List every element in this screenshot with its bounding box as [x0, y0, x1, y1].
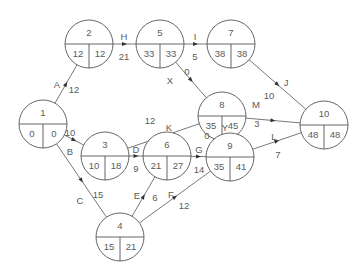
activity-label: E	[134, 190, 140, 201]
network-svg: 1002121231018415215333362127738388354593…	[0, 0, 363, 276]
activity-label: Y	[222, 122, 229, 133]
duration-label: 0	[184, 66, 189, 77]
duration-label: 15	[93, 189, 104, 200]
node-2: 21212	[65, 20, 113, 68]
node-earliest-start: 21	[151, 160, 162, 171]
node-earliest-start: 48	[308, 129, 319, 140]
node-latest-finish: 18	[111, 160, 122, 171]
edge-l	[253, 133, 302, 150]
activity-label: L	[271, 131, 276, 142]
node-id: 3	[102, 139, 107, 150]
node-latest-finish: 0	[51, 128, 56, 139]
edge-x	[176, 62, 207, 98]
activity-label: G	[195, 144, 202, 155]
arrowhead-icon	[78, 177, 82, 182]
node-earliest-start: 10	[89, 160, 100, 171]
node-4: 41521	[96, 213, 144, 261]
duration-label: 12	[69, 84, 80, 95]
node-earliest-start: 38	[215, 48, 226, 59]
duration-label: 12	[145, 115, 156, 126]
edge-g	[191, 154, 206, 158]
activity-label: B	[67, 146, 73, 157]
duration-label: 7	[275, 149, 280, 160]
node-10: 104848	[300, 101, 348, 149]
node-latest-finish: 27	[173, 160, 184, 171]
node-1: 100	[19, 100, 67, 148]
activity-label: K	[166, 122, 173, 133]
node-id: 8	[219, 99, 224, 110]
arrowhead-icon	[196, 154, 201, 158]
activity-label: H	[121, 31, 128, 42]
node-3: 31018	[81, 132, 129, 180]
arrowhead-icon	[134, 154, 139, 158]
activity-label: F	[168, 189, 174, 200]
edge-d	[129, 154, 143, 158]
duration-label: 0	[204, 130, 209, 141]
node-latest-finish: 38	[237, 48, 248, 59]
node-id: 1	[40, 107, 45, 118]
duration-label: 5	[192, 51, 197, 62]
node-latest-finish: 48	[330, 129, 341, 140]
node-earliest-start: 15	[104, 241, 115, 252]
activity-label: A	[54, 79, 61, 90]
node-id: 5	[157, 27, 162, 38]
arrowhead-icon	[141, 194, 145, 199]
activity-label: X	[167, 75, 174, 86]
node-id: 6	[164, 139, 169, 150]
arrowhead-icon	[193, 42, 198, 46]
duration-label: 21	[119, 51, 130, 62]
activity-label: I	[194, 31, 197, 42]
node-5: 53333	[136, 20, 184, 68]
node-7: 73838	[207, 20, 255, 68]
node-latest-finish: 21	[126, 241, 137, 252]
node-9: 93541	[206, 133, 254, 181]
duration-label: 10	[264, 90, 275, 101]
nodes-layer: 1002121231018415215333362127738388354593…	[19, 20, 348, 261]
arrowhead-icon	[122, 42, 127, 46]
duration-label: 10	[65, 127, 76, 138]
activity-label: D	[133, 144, 140, 155]
duration-label: 3	[254, 118, 259, 129]
duration-label: 12	[179, 200, 190, 211]
node-earliest-start: 0	[29, 128, 34, 139]
node-latest-finish: 45	[228, 120, 239, 131]
duration-label: 9	[133, 163, 138, 174]
node-latest-finish: 12	[95, 48, 106, 59]
node-latest-finish: 41	[236, 161, 247, 172]
edge-i	[184, 42, 207, 46]
node-id: 4	[117, 220, 122, 231]
activity-label: C	[77, 195, 84, 206]
node-id: 9	[227, 140, 232, 151]
node-earliest-start: 12	[73, 48, 84, 59]
project-network-diagram: 1002121231018415215333362127738388354593…	[0, 0, 363, 276]
duration-label: 6	[152, 192, 157, 203]
duration-label: 14	[194, 164, 205, 175]
node-earliest-start: 35	[214, 161, 225, 172]
edge-h	[113, 42, 136, 46]
activity-label: J	[284, 77, 289, 88]
node-earliest-start: 33	[144, 48, 155, 59]
node-6: 62127	[143, 132, 191, 180]
node-id: 10	[319, 108, 330, 119]
node-latest-finish: 33	[166, 48, 177, 59]
arrowhead-icon	[63, 82, 67, 87]
node-id: 7	[228, 27, 233, 38]
activity-label: M	[252, 99, 260, 110]
node-id: 2	[86, 27, 91, 38]
arrowhead-icon	[71, 137, 76, 141]
